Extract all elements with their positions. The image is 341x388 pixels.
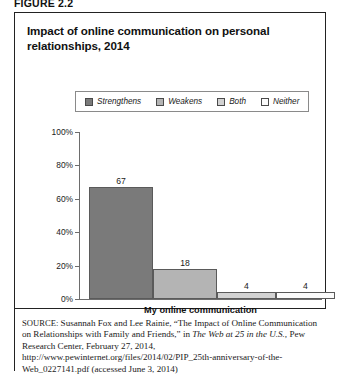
legend-swatch-neither (261, 98, 269, 106)
bar-neither: 4 (276, 292, 335, 299)
legend-item-strengthens: Strengthens (85, 97, 141, 106)
chart-title: Impact of online communication on person… (27, 24, 295, 53)
bar-both: 4 (217, 292, 276, 299)
legend-item-both: Both (217, 97, 246, 106)
legend-label-both: Both (229, 97, 246, 106)
legend-swatch-weakens (156, 98, 164, 106)
legend-label-strengthens: Strengthens (97, 97, 141, 106)
legend-swatch-both (217, 98, 225, 106)
source-label: SOURCE: (22, 318, 58, 328)
legend-label-weakens: Weakens (168, 97, 202, 106)
legend-item-weakens: Weakens (156, 97, 202, 106)
bar-strengthens: 67 (89, 187, 153, 299)
source-publication-title: The Web at 25 in the U.S., (192, 329, 287, 339)
source-note: SOURCE: Susannah Fox and Lee Rainie, “Th… (22, 318, 322, 375)
legend-swatch-strengthens (85, 98, 93, 106)
bar-value-strengthens: 67 (90, 176, 152, 186)
y-tick-label-20: 20% (56, 261, 73, 271)
y-axis-line (79, 132, 80, 300)
bar-weakens: 18 (153, 269, 217, 299)
x-axis-label: My online communication (79, 305, 322, 315)
source-left-rule (14, 309, 15, 371)
y-tick-label-100: 100% (52, 127, 73, 137)
plot-area: 100% 80% 60% 40% 20% 0% 67 18 4 (79, 132, 322, 300)
bar-value-both: 4 (218, 281, 275, 291)
chart-legend: Strengthens Weakens Both Neither (75, 91, 309, 112)
bar-value-weakens: 18 (154, 258, 216, 268)
y-tick-label-60: 60% (56, 194, 73, 204)
y-tick-label-80: 80% (56, 160, 73, 170)
x-axis-line (79, 299, 322, 300)
y-tick-label-40: 40% (56, 227, 73, 237)
bar-value-neither: 4 (277, 281, 334, 291)
legend-item-neither: Neither (261, 97, 299, 106)
legend-label-neither: Neither (273, 97, 299, 106)
y-tick-label-0: 0% (61, 294, 73, 304)
chart-frame: Impact of online communication on person… (14, 12, 326, 309)
figure-label: FIGURE 2.2 (14, 0, 73, 9)
